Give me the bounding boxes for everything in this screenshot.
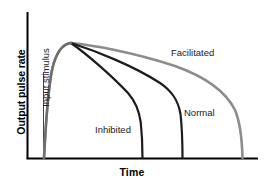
input-stimulus-label: Input stimulus (40, 30, 51, 126)
series-curve-normal (71, 43, 183, 158)
series-curve-inhibited (71, 43, 143, 158)
y-axis-title: Output pulse rate (15, 27, 27, 157)
chart-container: Output pulse rate Time Input stimulus Fa… (0, 0, 264, 184)
series-label-facilitated: Facilitated (171, 47, 214, 58)
series-label-normal: Normal (184, 107, 215, 118)
x-axis-title: Time (27, 166, 237, 178)
series-label-inhibited: Inhibited (95, 124, 131, 135)
series-curve-facilitated (44, 43, 243, 158)
